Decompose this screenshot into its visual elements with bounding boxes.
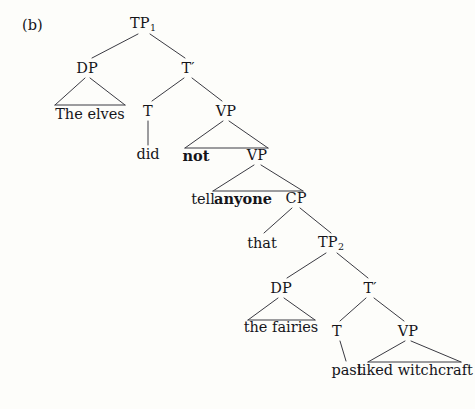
leaf-did: did xyxy=(136,147,159,162)
triangle-vp3-left xyxy=(368,341,405,362)
leaf-the-elves: The elves xyxy=(55,107,125,122)
branch-tp2-tbar2 xyxy=(337,253,368,278)
branch-tp2-dp2 xyxy=(287,253,326,278)
branch-tp1-tbar1 xyxy=(150,34,185,58)
leaf-that: that xyxy=(247,236,277,251)
panel-label: (b) xyxy=(22,18,43,33)
node-vp2: VP xyxy=(247,148,267,163)
triangle-vp3-right xyxy=(411,341,461,362)
node-tp2: TP2 xyxy=(318,235,344,251)
branch-cp-that xyxy=(264,208,292,233)
syntax-tree-figure: (b) TP1 DP T′ T VP VP CP TP2 DP T′ T VP … xyxy=(0,0,475,409)
triangle-dp2-right xyxy=(284,298,315,320)
leaf-liked-witchcraft: liked witchcraft xyxy=(357,363,473,378)
node-t2: T xyxy=(332,324,342,339)
branch-tp1-dp1 xyxy=(92,34,138,58)
triangle-vp2-left xyxy=(213,165,254,191)
node-vp3: VP xyxy=(398,324,418,339)
node-cp: CP xyxy=(285,191,306,206)
node-tp2-subscript: 2 xyxy=(338,241,345,252)
node-tp2-label: TP xyxy=(318,234,338,250)
node-tp1-label: TP xyxy=(130,15,150,31)
branch-t2-past xyxy=(340,341,346,361)
node-tbar1: T′ xyxy=(181,61,194,76)
node-dp1: DP xyxy=(76,61,98,76)
node-t1: T xyxy=(143,104,153,119)
leaf-anyone: anyone xyxy=(214,192,272,207)
branch-tbar2-t2 xyxy=(340,298,366,321)
triangle-dp1-left xyxy=(55,78,85,105)
leaf-not: not xyxy=(183,149,210,164)
triangle-dp1-right xyxy=(90,78,125,105)
branch-tbar1-t1 xyxy=(152,78,184,101)
node-tbar2: T′ xyxy=(363,281,376,296)
triangle-vp2-right xyxy=(261,165,303,191)
triangle-dp2-left xyxy=(248,298,278,320)
node-dp2: DP xyxy=(270,281,292,296)
triangle-vp1-right xyxy=(229,121,268,148)
leaf-the-fairies: the fairies xyxy=(244,320,319,335)
branch-cp-tp2 xyxy=(300,208,331,233)
branch-tbar2-vp3 xyxy=(374,298,404,321)
node-tp1-subscript: 1 xyxy=(150,22,157,33)
triangle-vp1-left xyxy=(185,121,223,148)
node-vp1: VP xyxy=(216,104,236,119)
leaf-tell: tell xyxy=(191,192,215,207)
node-tp1: TP1 xyxy=(130,16,156,32)
branch-tbar1-vp1 xyxy=(192,78,222,101)
